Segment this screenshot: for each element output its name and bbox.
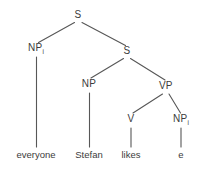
node-np-subject: NP bbox=[82, 79, 96, 91]
leaf-trace-e: e bbox=[178, 150, 183, 160]
node-root-s: S bbox=[74, 10, 81, 22]
syntax-tree-figure: S NPi S NP VP V NPi everyone Stefan like… bbox=[0, 0, 209, 169]
branch-vp-to-np-i bbox=[169, 94, 181, 113]
node-embedded-s-label: S bbox=[123, 45, 130, 56]
node-v-label: V bbox=[127, 113, 134, 124]
branch-embedded-s-to-np bbox=[91, 59, 124, 79]
leaf-likes: likes bbox=[121, 150, 140, 160]
node-vp: VP bbox=[159, 81, 173, 93]
node-root-s-label: S bbox=[74, 9, 81, 20]
node-np-i-top-label: NP bbox=[28, 42, 42, 53]
tree-branches-svg bbox=[0, 0, 209, 169]
node-np-subject-label: NP bbox=[82, 78, 96, 89]
node-vp-label: VP bbox=[159, 80, 173, 91]
node-np-i-object-label: NP bbox=[173, 113, 187, 124]
node-v: V bbox=[127, 114, 134, 126]
node-np-i-top-subscript: i bbox=[42, 48, 43, 55]
node-np-i-object-subscript: i bbox=[187, 119, 188, 126]
branch-vp-to-v bbox=[133, 94, 163, 113]
branch-embedded-s-to-vp bbox=[131, 59, 166, 81]
leaf-stefan: Stefan bbox=[75, 150, 102, 160]
node-embedded-s: S bbox=[123, 46, 130, 58]
branch-root-s-to-embedded-s bbox=[82, 23, 126, 46]
branch-root-s-to-np-i bbox=[39, 23, 75, 43]
leaf-everyone: everyone bbox=[16, 150, 55, 160]
node-np-i-object: NPi bbox=[173, 114, 189, 126]
node-np-i-top: NPi bbox=[28, 43, 44, 55]
